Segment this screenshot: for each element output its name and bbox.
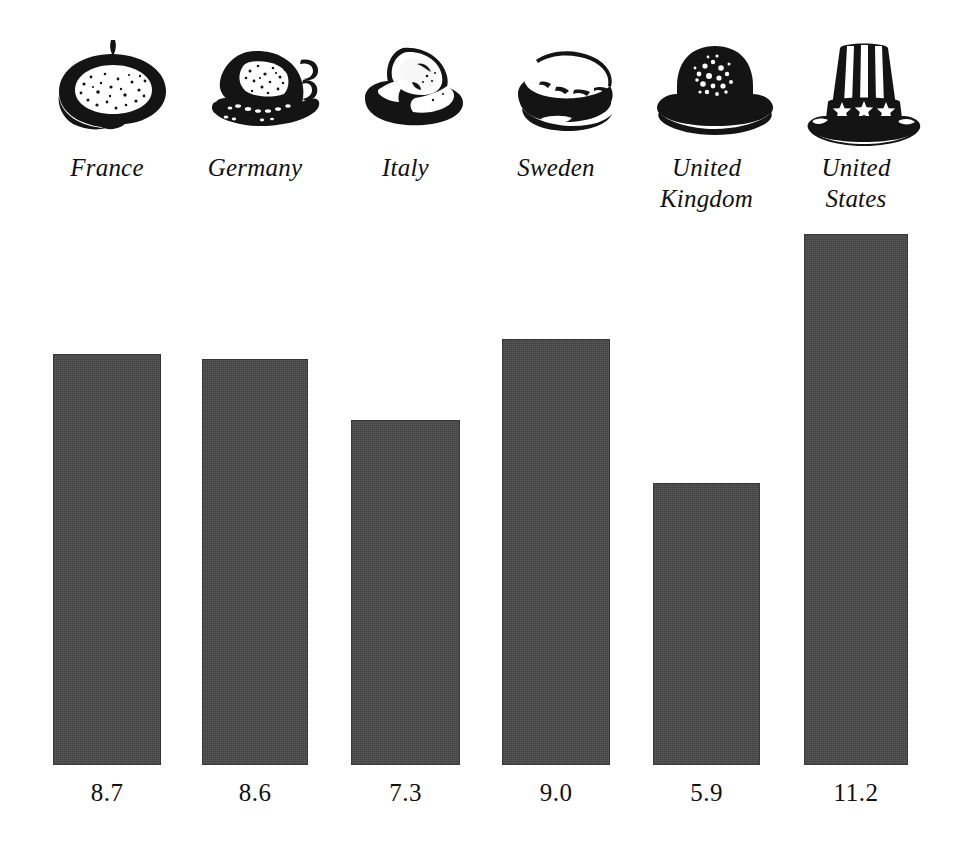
bar-sweden [502,339,610,765]
value-label-france: 8.7 [43,779,171,807]
country-label-sweden: Sweden [492,152,620,183]
value-label-united-states: 11.2 [794,779,918,807]
uncle-sam-top-hat-icon [804,32,908,150]
country-label-italy: Italy [341,152,470,183]
chart-column-united-states: United States 11.2 [804,0,908,853]
country-label-united-states: United States [794,152,918,214]
student-cap-icon [502,32,610,150]
country-label-united-kingdom: United Kingdom [643,152,770,214]
chart-column-italy: Italy 7.3 [351,0,460,853]
fedora-hat-icon [351,32,460,150]
value-label-italy: 7.3 [341,779,470,807]
bar-united-states [804,234,908,765]
beret-hat-icon [53,32,161,150]
bar-chart: France 8.7 [0,0,956,853]
bar-united-kingdom [653,483,760,765]
tyrolean-hat-icon [202,32,308,150]
bar-germany [202,359,308,765]
chart-column-france: France 8.7 [53,0,161,853]
country-label-france: France [43,152,171,183]
chart-column-united-kingdom: United Kingdom 5.9 [653,0,760,853]
country-label-germany: Germany [192,152,318,183]
value-label-united-kingdom: 5.9 [643,779,770,807]
chart-column-germany: Germany 8.6 [202,0,308,853]
value-label-germany: 8.6 [192,779,318,807]
chart-column-sweden: Sweden 9.0 [502,0,610,853]
value-label-sweden: 9.0 [492,779,620,807]
bowler-hat-icon [653,32,760,150]
bar-france [53,354,161,765]
bar-italy [351,420,460,765]
